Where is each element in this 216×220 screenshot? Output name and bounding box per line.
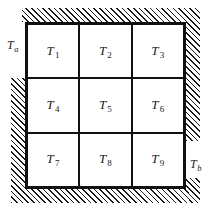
grid-cell: T6 xyxy=(133,79,183,131)
node-label: T9 xyxy=(151,151,164,168)
node-label: T8 xyxy=(99,151,112,168)
node-label: T1 xyxy=(47,43,60,60)
node-label: T4 xyxy=(47,97,60,114)
hatch-band-right-upper xyxy=(186,8,200,141)
node-label: T5 xyxy=(99,97,112,114)
grid-cell: T5 xyxy=(80,79,130,131)
grid-cell: T1 xyxy=(28,25,78,77)
node-label: T6 xyxy=(151,97,164,114)
hatch-band-bottom xyxy=(11,189,189,203)
boundary-temperature-label-left: Ta xyxy=(7,38,18,54)
grid-cell: T7 xyxy=(28,134,78,186)
hatch-band-left xyxy=(11,78,25,203)
grid-cell: T2 xyxy=(80,25,130,77)
hatch-band-top xyxy=(22,8,200,22)
boundary-temperature-label-right: Tb xyxy=(190,157,201,173)
node-label: T2 xyxy=(99,43,112,60)
conduction-grid-figure: T1 T2 T3 T4 T5 T6 T7 T8 T9 Ta Tb xyxy=(0,0,216,220)
node-label: T3 xyxy=(151,43,164,60)
node-label: T7 xyxy=(47,151,60,168)
grid-cell: T9 xyxy=(133,134,183,186)
node-grid: T1 T2 T3 T4 T5 T6 T7 T8 T9 xyxy=(25,22,186,189)
grid-cell: T8 xyxy=(80,134,130,186)
grid-cell: T3 xyxy=(133,25,183,77)
grid-cell: T4 xyxy=(28,79,78,131)
